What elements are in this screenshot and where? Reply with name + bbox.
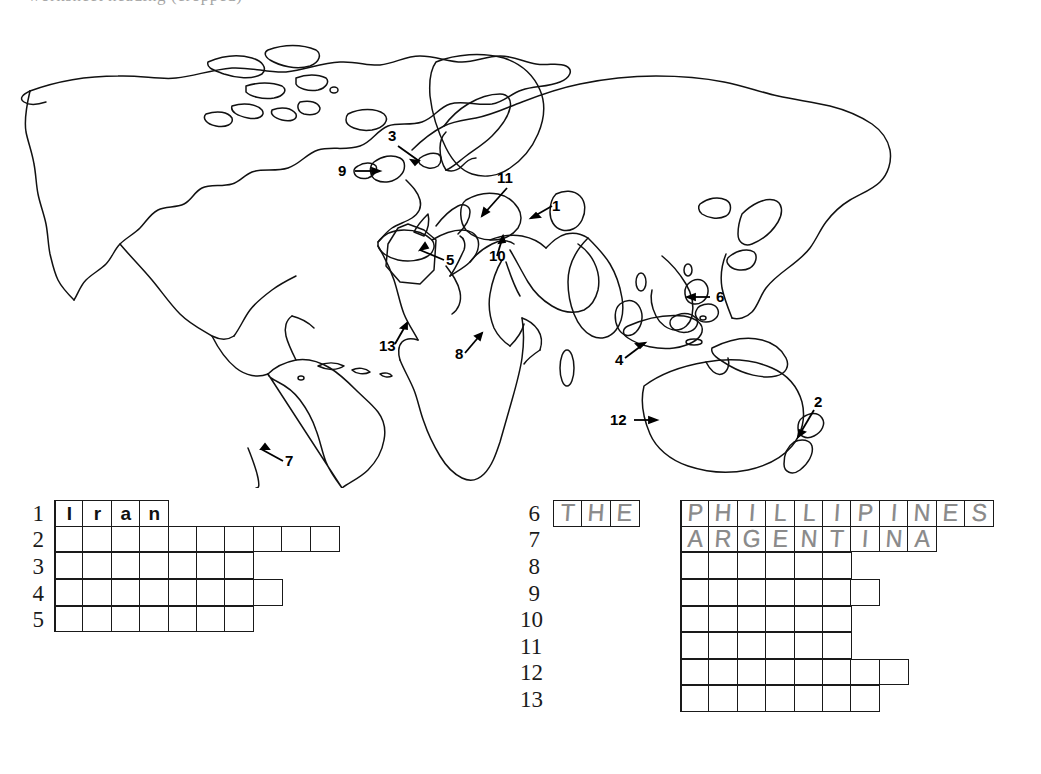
answer-cell[interactable]	[737, 579, 767, 606]
answer-cells[interactable]: PHILLIPINES	[680, 500, 994, 527]
answer-cell[interactable]: P	[850, 500, 880, 527]
answer-cell[interactable]	[822, 579, 852, 606]
answer-cell[interactable]: I	[879, 500, 909, 527]
answer-cell[interactable]	[310, 526, 340, 553]
answer-row[interactable]: 10	[520, 606, 994, 633]
answer-cell[interactable]	[111, 606, 141, 633]
answer-cells[interactable]	[54, 554, 254, 579]
answer-cell[interactable]: n	[139, 500, 169, 527]
answer-cell[interactable]	[708, 552, 738, 579]
answer-cell[interactable]	[765, 632, 795, 659]
answer-cell[interactable]: I	[850, 526, 880, 553]
answer-cell[interactable]: I	[54, 500, 84, 527]
answer-cell[interactable]	[224, 579, 254, 606]
answer-row[interactable]: 9	[520, 580, 994, 607]
answer-cell[interactable]	[765, 606, 795, 633]
answer-cell[interactable]: a	[111, 500, 141, 527]
answer-cell[interactable]	[708, 685, 738, 712]
answer-cell[interactable]	[822, 685, 852, 712]
answer-cells[interactable]: Iran	[54, 500, 169, 527]
answer-cell[interactable]	[168, 552, 198, 579]
answer-cell[interactable]	[680, 606, 710, 633]
answer-cell[interactable]	[680, 685, 710, 712]
answer-cell[interactable]	[794, 606, 824, 633]
answer-cells[interactable]	[54, 607, 254, 632]
answer-cell[interactable]	[680, 579, 710, 606]
answer-cells[interactable]	[54, 527, 340, 552]
answer-cell[interactable]	[54, 606, 84, 633]
answer-cell[interactable]: L	[794, 500, 824, 527]
answer-cells[interactable]	[680, 687, 880, 712]
prefix-cell[interactable]: T	[553, 500, 583, 527]
answer-cell[interactable]	[168, 579, 198, 606]
answer-row[interactable]: 2	[24, 527, 340, 554]
answer-cell[interactable]: G	[737, 526, 767, 553]
answer-cells[interactable]	[680, 660, 909, 685]
answer-cell[interactable]	[850, 659, 880, 686]
answer-cell[interactable]	[822, 606, 852, 633]
answer-cells[interactable]	[680, 634, 852, 659]
answer-row[interactable]: 8	[520, 553, 994, 580]
answer-cell[interactable]	[737, 552, 767, 579]
answer-cell[interactable]	[139, 552, 169, 579]
answer-cell[interactable]	[82, 579, 112, 606]
answer-cells[interactable]	[680, 554, 852, 579]
answer-cell[interactable]	[794, 685, 824, 712]
answer-cell[interactable]	[765, 659, 795, 686]
answer-cell[interactable]	[765, 552, 795, 579]
answer-cell[interactable]	[111, 552, 141, 579]
answer-cell[interactable]	[737, 659, 767, 686]
answer-cell[interactable]	[224, 526, 254, 553]
answer-cell[interactable]	[54, 526, 84, 553]
answer-row[interactable]: 13	[520, 686, 994, 713]
answer-row[interactable]: 11	[520, 633, 994, 660]
answer-cell[interactable]	[224, 552, 254, 579]
answer-cell[interactable]	[54, 579, 84, 606]
answer-cell[interactable]	[879, 659, 909, 686]
answer-row[interactable]: 4	[24, 580, 340, 607]
answer-cells[interactable]: ARGENTINA	[680, 527, 937, 552]
answer-cell[interactable]	[111, 579, 141, 606]
answer-cell[interactable]	[765, 685, 795, 712]
answer-cell[interactable]	[82, 552, 112, 579]
answer-cell[interactable]	[139, 579, 169, 606]
answer-row[interactable]: 12	[520, 660, 994, 687]
answer-cell[interactable]	[794, 632, 824, 659]
answer-cells[interactable]	[54, 581, 283, 606]
answer-cell[interactable]: E	[765, 526, 795, 553]
answer-cell[interactable]	[822, 659, 852, 686]
answer-cell[interactable]	[794, 579, 824, 606]
answer-row[interactable]: 5	[24, 606, 340, 633]
answer-cell[interactable]: P	[680, 500, 710, 527]
answer-cell[interactable]	[253, 579, 283, 606]
right-answer-grid[interactable]: 6PHILLIPINESTHE7ARGENTINA8910111213	[520, 500, 994, 713]
prefix-word-box[interactable]: THE	[553, 500, 640, 527]
answer-cell[interactable]	[708, 659, 738, 686]
answer-cell[interactable]: A	[907, 526, 937, 553]
answer-cell[interactable]: R	[708, 526, 738, 553]
left-answer-grid[interactable]: 1Iran2345	[24, 500, 340, 633]
answer-cell[interactable]	[737, 606, 767, 633]
answer-cell[interactable]	[708, 606, 738, 633]
answer-cell[interactable]: I	[737, 500, 767, 527]
answer-cell[interactable]	[680, 659, 710, 686]
answer-cell[interactable]	[850, 579, 880, 606]
answer-cell[interactable]: N	[879, 526, 909, 553]
answer-row[interactable]: 1Iran	[24, 500, 340, 527]
prefix-cell[interactable]: E	[610, 500, 640, 527]
answer-cell[interactable]	[253, 526, 283, 553]
answer-cell[interactable]	[139, 526, 169, 553]
answer-cell[interactable]	[196, 552, 226, 579]
answer-row[interactable]: 3	[24, 553, 340, 580]
answer-cell[interactable]	[111, 526, 141, 553]
answer-cell[interactable]	[794, 659, 824, 686]
answer-cell[interactable]	[822, 552, 852, 579]
answer-cell[interactable]	[794, 552, 824, 579]
answer-cell[interactable]	[196, 526, 226, 553]
answer-cell[interactable]	[281, 526, 311, 553]
answer-cell[interactable]	[224, 606, 254, 633]
answer-cell[interactable]	[765, 579, 795, 606]
answer-cell[interactable]	[680, 632, 710, 659]
answer-row[interactable]: 7ARGENTINA	[520, 527, 994, 554]
answer-cell[interactable]	[54, 552, 84, 579]
